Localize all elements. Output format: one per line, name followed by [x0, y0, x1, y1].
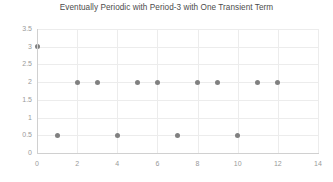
gridline-x-8: [198, 29, 199, 153]
gridline-y-3: [37, 47, 318, 48]
data-point: [215, 80, 220, 85]
data-point: [275, 80, 280, 85]
gridline-x-14: [318, 29, 319, 153]
y-tick-label: 1: [0, 114, 32, 121]
gridline-y-1.5: [37, 100, 318, 101]
data-point: [135, 80, 140, 85]
y-axis-spine: [37, 29, 38, 154]
data-point: [175, 133, 180, 138]
x-tick-label: 8: [183, 160, 213, 167]
chart-title: Eventually Periodic with Period-3 with O…: [0, 3, 333, 12]
y-tick-label: 3.5: [0, 25, 32, 32]
y-tick-label: 2: [0, 78, 32, 85]
data-point: [55, 133, 60, 138]
plot-area: [37, 29, 318, 153]
y-tick-label: 1.5: [0, 96, 32, 103]
x-tick-label: 4: [102, 160, 132, 167]
gridline-x-2: [77, 29, 78, 153]
x-tick-label: 14: [303, 160, 333, 167]
x-axis-spine: [37, 153, 319, 154]
data-point: [75, 80, 80, 85]
gridline-x-12: [278, 29, 279, 153]
data-point: [195, 80, 200, 85]
y-tick-label: 2.5: [0, 60, 32, 67]
x-tick-label: 12: [263, 160, 293, 167]
data-point: [95, 80, 100, 85]
chart-figure: Eventually Periodic with Period-3 with O…: [0, 0, 333, 182]
gridline-x-6: [157, 29, 158, 153]
x-tick-label: 6: [142, 160, 172, 167]
gridline-y-1: [37, 118, 318, 119]
y-tick-label: 0: [0, 149, 32, 156]
data-point: [115, 133, 120, 138]
x-tick-label: 2: [62, 160, 92, 167]
x-tick-label: 10: [223, 160, 253, 167]
gridline-y-2.5: [37, 64, 318, 65]
data-point: [255, 80, 260, 85]
gridline-y-3.5: [37, 29, 318, 30]
x-tick-label: 0: [22, 160, 52, 167]
data-point: [155, 80, 160, 85]
data-point: [235, 133, 240, 138]
y-tick-label: 3: [0, 43, 32, 50]
y-tick-label: 0.5: [0, 131, 32, 138]
